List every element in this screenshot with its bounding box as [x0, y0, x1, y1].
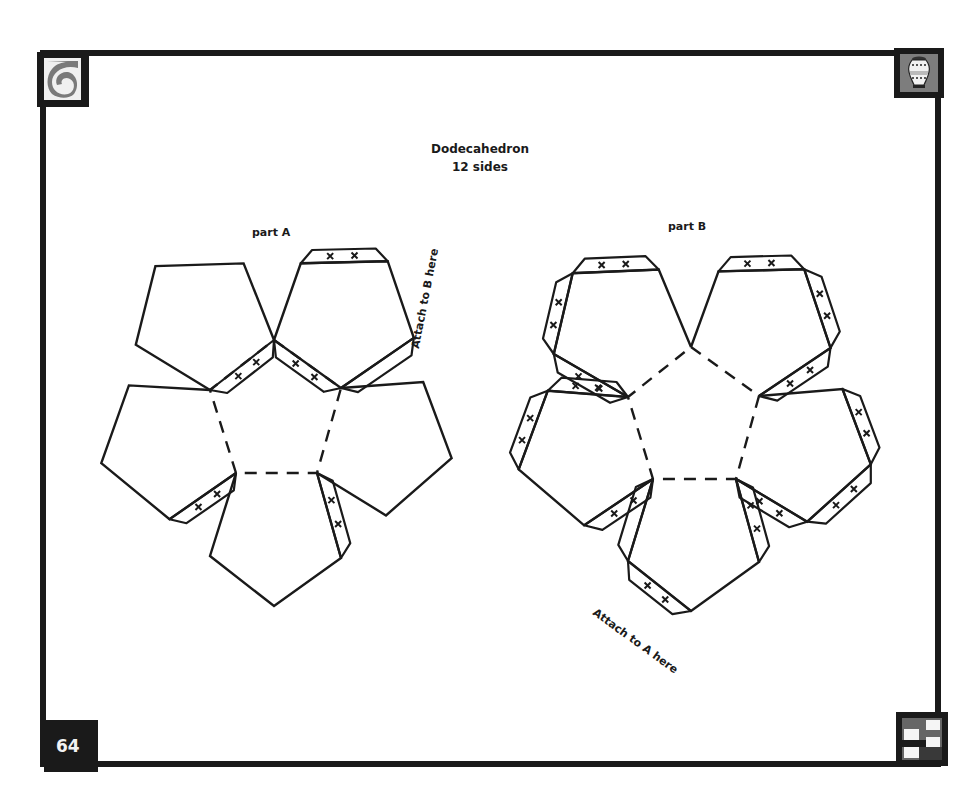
tab-x-mark	[214, 491, 220, 497]
tab-x-mark	[253, 359, 259, 365]
tab-x-mark	[328, 497, 334, 503]
tab-x-mark	[599, 262, 605, 268]
glue-tab	[510, 391, 548, 470]
net-part-a	[101, 249, 451, 607]
tab-x-mark	[645, 582, 651, 588]
center-face-fold-lines	[210, 340, 341, 473]
tab-x-mark	[833, 502, 839, 508]
tab-x-mark	[235, 373, 241, 379]
center-face-fold-lines	[628, 347, 759, 479]
tab-x-mark	[754, 526, 760, 532]
glue-tab	[628, 561, 691, 614]
tab-x-mark	[335, 521, 341, 527]
tab-x-mark	[851, 486, 857, 492]
tab-x-mark	[824, 313, 830, 319]
tab-x-mark	[293, 361, 299, 367]
net-part-b	[510, 256, 880, 615]
face-outline	[136, 263, 274, 390]
glue-tab	[843, 389, 880, 464]
tab-x-mark	[807, 367, 813, 373]
tab-x-mark	[856, 409, 862, 415]
tab-x-mark	[519, 437, 525, 443]
tab-x-mark	[527, 415, 533, 421]
tab-x-mark	[352, 253, 358, 259]
tab-x-mark	[864, 430, 870, 436]
glue-tab	[584, 479, 653, 530]
glue-tab	[807, 464, 871, 523]
tab-x-mark	[817, 291, 823, 297]
glue-tab	[804, 269, 840, 348]
glue-tab	[719, 256, 805, 272]
tab-x-mark	[327, 253, 333, 259]
tab-x-mark	[787, 381, 793, 387]
glue-tab	[548, 378, 628, 397]
glue-tab	[736, 479, 769, 562]
tab-x-mark	[768, 260, 774, 266]
tab-x-mark	[662, 596, 668, 602]
glue-tab	[317, 473, 350, 558]
glue-tab	[274, 340, 341, 392]
tab-x-mark	[776, 510, 782, 516]
glue-tab	[573, 256, 659, 273]
tab-x-mark	[311, 374, 317, 380]
tab-x-mark	[556, 299, 562, 305]
dodecahedron-nets	[0, 0, 980, 796]
tab-x-mark	[744, 261, 750, 267]
tab-x-mark	[611, 511, 617, 517]
tab-x-mark	[623, 261, 629, 267]
tab-x-mark	[550, 322, 556, 328]
tab-x-mark	[195, 504, 201, 510]
glue-tab	[170, 473, 237, 523]
